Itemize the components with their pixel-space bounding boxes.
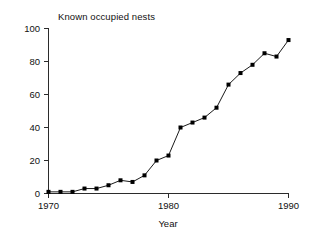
x-axis: 1970 1980 1990 Year [38,194,299,230]
data-point [251,63,255,67]
data-point [179,126,183,130]
data-point [167,154,171,158]
data-point [203,116,207,120]
data-point [191,121,195,125]
data-point [239,71,243,75]
line-chart-plot: 100 80 60 40 20 0 1970 1980 1990 Year [0,0,319,240]
y-axis: 100 80 60 40 20 0 [24,23,48,199]
data-point [83,187,87,191]
data-point [143,173,147,177]
data-point [119,178,123,182]
x-axis-title: Year [158,218,177,229]
x-tick-label-1970: 1970 [38,200,59,211]
data-point [263,51,267,55]
x-tick-label-1980: 1980 [158,200,179,211]
y-tick-label-100: 100 [24,23,40,34]
y-tick-label-60: 60 [29,89,40,100]
data-point [287,38,291,42]
data-point [155,159,159,163]
data-point [227,83,231,87]
data-point [215,106,219,110]
data-point [71,190,75,194]
data-point [275,55,279,59]
data-point [47,190,51,194]
y-tick-label-80: 80 [29,56,40,67]
x-tick-label-1990: 1990 [278,200,299,211]
data-point [107,183,111,187]
data-series-markers [47,38,291,194]
y-tick-label-20: 20 [29,155,40,166]
data-point [59,190,63,194]
chart-figure: Known occupied nests 100 80 60 40 20 0 1… [0,0,319,240]
y-tick-label-0: 0 [35,188,40,199]
data-point [131,180,135,184]
y-tick-label-40: 40 [29,122,40,133]
data-point [95,187,99,191]
